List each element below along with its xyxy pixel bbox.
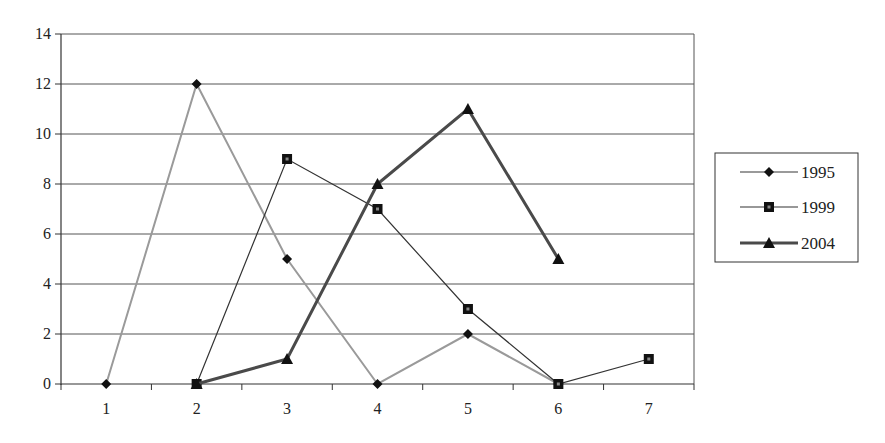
y-tick-label: 8 — [43, 175, 51, 192]
y-tick-label: 14 — [35, 25, 51, 42]
line-chart: 02468101214 1234567 199519992004 — [0, 0, 885, 443]
y-tick-label: 10 — [35, 125, 51, 142]
series-line-1999 — [197, 159, 649, 384]
square-marker-icon-center — [768, 206, 771, 209]
y-tick-label: 4 — [43, 275, 51, 292]
square-marker-icon-center — [286, 158, 289, 161]
legend-label: 1995 — [801, 163, 835, 182]
x-tick-label: 5 — [464, 400, 472, 417]
legend-label: 2004 — [801, 234, 836, 253]
x-tick-label: 7 — [645, 400, 653, 417]
triangle-marker-icon — [281, 353, 293, 364]
x-tick-label: 2 — [193, 400, 201, 417]
y-tick-label: 2 — [43, 325, 51, 342]
y-axis-tick-labels: 02468101214 — [35, 25, 51, 392]
triangle-marker-icon — [462, 103, 474, 114]
series-line-2004 — [197, 109, 559, 384]
diamond-marker-icon — [463, 329, 473, 339]
square-marker-icon-center — [647, 358, 650, 361]
series-1999 — [192, 154, 654, 389]
square-marker-icon-center — [376, 208, 379, 211]
x-tick-label: 4 — [374, 400, 382, 417]
x-tick-label: 6 — [554, 400, 562, 417]
diamond-marker-icon — [101, 379, 111, 389]
y-tick-label: 0 — [43, 375, 51, 392]
x-tick-label: 1 — [102, 400, 110, 417]
legend-label: 1999 — [801, 198, 835, 217]
diamond-marker-icon — [192, 79, 202, 89]
square-marker-icon-center — [466, 308, 469, 311]
y-tick-label: 12 — [35, 75, 51, 92]
x-tick-label: 3 — [283, 400, 291, 417]
series-2004 — [191, 103, 565, 389]
y-tick-label: 6 — [43, 225, 51, 242]
x-axis-tick-labels: 1234567 — [102, 400, 653, 417]
legend: 199519992004 — [715, 153, 858, 262]
square-marker-icon-center — [557, 383, 560, 386]
